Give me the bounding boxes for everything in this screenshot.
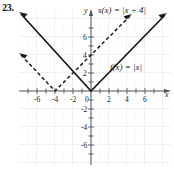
y-tick-label-4: 4 bbox=[83, 51, 87, 60]
x-tick-label-4: 4 bbox=[125, 95, 129, 104]
figure-container: 23. bbox=[0, 0, 174, 175]
x-tick-label-0: 0 bbox=[85, 95, 89, 104]
annotation-f-function: f(x) = |x| bbox=[110, 62, 142, 72]
x-tick-label-6: 6 bbox=[143, 95, 147, 104]
y-tick-label-6: 6 bbox=[83, 33, 87, 42]
y-tick-label--2: -2 bbox=[81, 105, 87, 114]
y-tick-label--6: -6 bbox=[81, 141, 87, 150]
x-axis-label: x bbox=[165, 90, 169, 99]
annotation-s-function: s(x) = |x + 4| bbox=[98, 5, 146, 15]
x-tick-label--6: -6 bbox=[34, 95, 40, 104]
y-tick-label-2: 2 bbox=[83, 69, 87, 78]
y-tick-label--4: -4 bbox=[81, 123, 87, 132]
x-tick-label--2: -2 bbox=[70, 95, 76, 104]
y-axis-label: y bbox=[84, 6, 88, 15]
x-tick-label--4: -4 bbox=[52, 95, 58, 104]
x-tick-label-2: 2 bbox=[107, 95, 111, 104]
